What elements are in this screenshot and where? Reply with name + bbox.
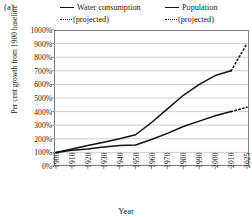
legend-row-population-projected: (projected) [165,13,217,25]
figure-panel-a: (a) Water consumption (projected) Popula… [0,0,252,217]
x-tick-label: 1920 [83,152,92,168]
legend-row-population-solid: Population [165,1,217,13]
chart-legend: Water consumption (projected) Population… [60,1,252,27]
x-tick-label: 2025 [243,152,252,168]
x-tick-label: 2000 [211,152,220,168]
y-tick-label: 700% [34,66,52,75]
y-tick-label: 1000% [30,26,52,35]
legend-line-solid-icon [165,7,179,8]
x-tick-label: 1940 [115,152,124,168]
legend-label-population-projected: (projected) [178,14,214,25]
x-tick-label: 2010 [227,152,236,168]
y-tick-label: 900% [34,39,52,48]
y-axis-tick-labels: 0%100%200%300%400%500%600%700%800%900%10… [0,30,52,166]
legend-entry-water-consumption: Water consumption (projected) [60,1,141,25]
y-tick-label: 600% [34,80,52,89]
x-axis-title: Year [0,207,252,216]
x-tick-label: 1910 [67,152,76,168]
legend-label-water-consumption: Water consumption [77,2,141,13]
legend-label-water-projected: (projected) [73,14,109,25]
legend-line-solid-icon [60,7,74,8]
x-tick-label: 1990 [195,152,204,168]
y-tick-label: 300% [34,121,52,130]
y-tick-label: 500% [34,94,52,103]
y-tick-label: 400% [34,107,52,116]
x-tick-label: 1960 [147,152,156,168]
legend-label-population: Population [182,2,217,13]
y-tick-label: 200% [34,134,52,143]
series-projected-population [231,107,247,111]
x-tick-label: 1930 [99,152,108,168]
chart-canvas [54,30,249,166]
legend-entry-population: Population (projected) [165,1,217,25]
y-tick-label: 0% [42,162,52,171]
y-tick-label: 100% [34,148,52,157]
plot-area [54,30,249,166]
x-tick-label: 1900 [52,152,61,168]
x-axis-tick-labels: 1900191019201930194019501960197019801990… [54,168,249,202]
legend-row-water-solid: Water consumption [60,1,141,13]
y-tick-label: 800% [34,53,52,62]
x-tick-label: 1950 [131,152,140,168]
x-tick-label: 1980 [179,152,188,168]
x-tick-label: 1970 [163,152,172,168]
legend-row-water-projected: (projected) [60,13,141,25]
legend-line-dotted-icon [60,19,72,20]
legend-line-dotted-icon [165,19,177,20]
